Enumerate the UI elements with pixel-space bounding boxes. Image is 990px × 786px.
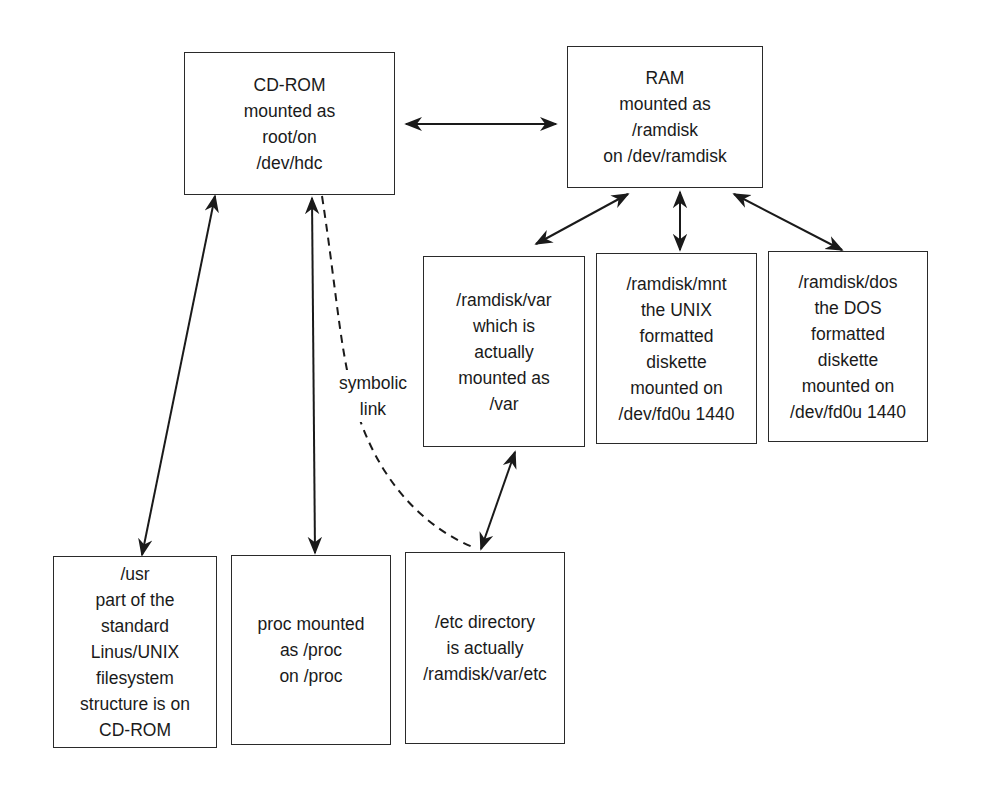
node-text: /var <box>489 391 518 417</box>
edge-ramdisk-var-etc <box>481 452 515 549</box>
node-text: filesystem <box>96 665 174 691</box>
node-text: formatted <box>811 321 885 347</box>
node-text: /ramdisk/dos <box>798 269 897 295</box>
node-text: proc mounted <box>257 611 364 637</box>
node-text: mounted on <box>630 375 722 401</box>
node-text: part of the <box>96 587 175 613</box>
node-text: /ramdisk <box>632 117 698 143</box>
node-text: root/on <box>262 124 316 150</box>
node-text: the DOS <box>814 295 881 321</box>
node-usr: /usr part of the standard Linus/UNIX fil… <box>53 556 217 748</box>
node-text: structure is on <box>80 691 190 717</box>
node-text: the UNIX <box>641 297 712 323</box>
node-text: which is <box>473 313 535 339</box>
symbolic-link-label: symbolic link <box>330 370 416 422</box>
node-text: /ramdisk/mnt <box>626 271 726 297</box>
node-text: /ramdisk/var <box>456 287 551 313</box>
node-text: diskette <box>646 349 706 375</box>
node-ramdisk-var: /ramdisk/var which is actually mounted a… <box>423 256 585 447</box>
node-ramdisk-mnt: /ramdisk/mnt the UNIX formatted diskette… <box>596 253 757 444</box>
node-proc: proc mounted as /proc on /proc <box>231 555 391 745</box>
node-etc: /etc directory is actually /ramdisk/var/… <box>405 552 565 744</box>
edge-label-text: symbolic <box>330 370 416 396</box>
node-text: as /proc <box>280 637 342 663</box>
node-text: /ramdisk/var/etc <box>423 661 547 687</box>
node-ram: RAM mounted as /ramdisk on /dev/ramdisk <box>567 46 763 188</box>
node-text: /dev/fd0u 1440 <box>619 401 735 427</box>
edge-label-text: link <box>330 396 416 422</box>
node-cdrom: CD-ROM mounted as root/on /dev/hdc <box>184 52 395 195</box>
node-text: /dev/fd0u 1440 <box>790 399 906 425</box>
node-ramdisk-dos: /ramdisk/dos the DOS formatted diskette … <box>768 251 928 442</box>
node-text: CD-ROM <box>254 72 326 98</box>
node-text: standard <box>101 613 169 639</box>
node-text: /etc directory <box>435 609 535 635</box>
node-text: mounted as <box>458 365 549 391</box>
node-text: mounted as <box>244 98 335 124</box>
node-text: diskette <box>818 347 878 373</box>
node-text: /dev/hdc <box>256 150 322 176</box>
node-text: Linus/UNIX <box>91 639 180 665</box>
node-text: /usr <box>120 561 149 587</box>
edge-ram-ramdisk-var <box>536 194 628 244</box>
node-text: RAM <box>646 65 685 91</box>
edge-ram-ramdisk-dos <box>734 194 842 250</box>
node-text: formatted <box>640 323 714 349</box>
node-text: mounted on <box>802 373 894 399</box>
edge-cdrom-proc <box>312 198 315 553</box>
node-text: CD-ROM <box>99 717 171 743</box>
node-text: on /dev/ramdisk <box>603 143 727 169</box>
edge-cdrom-usr <box>142 196 215 555</box>
node-text: mounted as <box>619 91 710 117</box>
node-text: is actually <box>447 635 524 661</box>
node-text: actually <box>474 339 533 365</box>
node-text: on /proc <box>279 663 342 689</box>
